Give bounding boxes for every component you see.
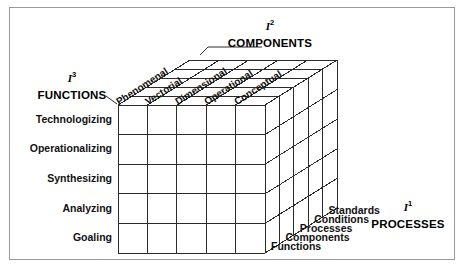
diagram-canvas: I3 FUNCTIONS I2 COMPONENTS I1 PROCESSES … <box>0 0 470 268</box>
depth-label: Functions <box>271 241 321 252</box>
row-label: Operationalizing <box>30 143 112 154</box>
axis-label-components: I2 COMPONENTS <box>205 18 335 51</box>
axis-title-functions: FUNCTIONS <box>38 89 107 101</box>
axis-symbol-functions: I3 <box>18 70 126 84</box>
axis-title-components: COMPONENTS <box>228 37 312 49</box>
row-label: Analyzing <box>62 203 112 214</box>
row-label: Synthesizing <box>47 173 112 184</box>
axis-symbol-components: I2 <box>205 18 335 32</box>
axis-label-functions: I3 FUNCTIONS <box>18 70 126 103</box>
row-label: Goaling <box>73 232 112 243</box>
row-label: Technologizing <box>36 114 112 125</box>
axis-title-processes: PROCESSES <box>371 218 444 230</box>
